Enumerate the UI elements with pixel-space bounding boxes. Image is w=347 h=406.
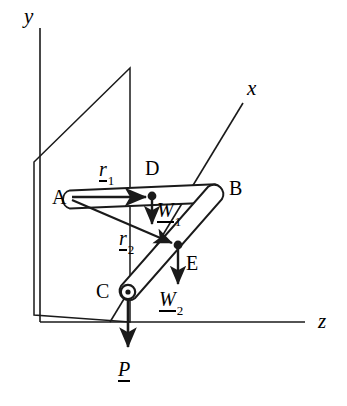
point-label-b: B — [229, 178, 242, 198]
vector-label-r2-symbol: r — [119, 228, 127, 251]
vector-label-w2-symbol: W — [159, 289, 176, 312]
axis-label-x: x — [247, 78, 256, 99]
vector-label-r1-subscript: 1 — [108, 173, 115, 188]
vector-label-r2-subscript: 2 — [128, 242, 135, 257]
vector-label-w1: W1 — [157, 200, 180, 224]
axis-label-z: z — [318, 311, 326, 332]
point-label-c: C — [96, 281, 109, 301]
vector-label-w1-subscript: 1 — [175, 214, 182, 229]
vector-label-w1-symbol: W — [157, 200, 174, 223]
vector-label-r1: r1 — [99, 159, 113, 183]
point-label-d: D — [145, 158, 159, 178]
axis-label-y: y — [24, 6, 33, 27]
statics-diagram: y x z A B C D E r1 r2 W1 W2 P — [0, 0, 347, 406]
vector-label-w2: W2 — [159, 289, 182, 313]
vector-label-r1-symbol: r — [99, 159, 107, 182]
point-label-a: A — [52, 187, 66, 207]
vector-label-p-symbol: P — [118, 359, 130, 382]
axes-group — [40, 28, 305, 322]
vector-label-r2: r2 — [119, 228, 133, 252]
point-label-e: E — [186, 253, 198, 273]
vector-label-p: P — [118, 359, 130, 383]
vector-label-w2-subscript: 2 — [177, 303, 184, 318]
pin-support-c — [121, 285, 135, 299]
